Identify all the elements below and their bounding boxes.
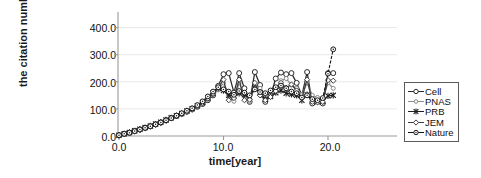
data-marker-center [191, 108, 193, 110]
data-marker [284, 77, 288, 81]
data-marker-center [238, 90, 240, 92]
legend-label: Cell [425, 87, 441, 96]
legend-item-pnas[interactable]: PNAS [408, 96, 456, 106]
legend-label: JEM [425, 118, 444, 127]
data-marker-center [265, 92, 267, 94]
data-marker-center [181, 112, 183, 114]
legend-item-prb[interactable]: PRB [408, 107, 456, 117]
data-marker [305, 70, 310, 75]
data-marker-center [218, 86, 220, 88]
data-marker-center [223, 89, 225, 91]
data-marker [284, 72, 289, 77]
data-marker-center [254, 89, 256, 91]
data-marker-center [280, 85, 282, 87]
legend-marker-cell [408, 87, 424, 96]
data-marker-center [129, 132, 131, 134]
data-marker-center [139, 129, 141, 131]
data-marker-center [134, 130, 136, 132]
legend-label: Nature [425, 128, 454, 137]
data-marker-center [270, 90, 272, 92]
data-marker [278, 70, 283, 75]
data-marker-center [207, 96, 209, 98]
data-marker-center [291, 91, 293, 93]
chart-figure: the citation number time[year] 400.0 300… [0, 0, 481, 178]
data-marker-center [150, 125, 152, 127]
data-marker-center [233, 94, 235, 96]
legend-label: PRB [425, 107, 445, 116]
legend-marker-nature [408, 128, 424, 137]
data-marker-center [155, 124, 157, 126]
data-marker-center [306, 95, 308, 97]
data-marker-center [186, 110, 188, 112]
data-marker [331, 78, 336, 83]
data-marker-center [312, 98, 314, 100]
data-marker-center [171, 117, 173, 119]
data-marker-center [332, 49, 334, 51]
data-marker-center [322, 97, 324, 99]
data-marker [289, 71, 294, 76]
data-marker-center [197, 104, 199, 106]
data-marker-center [317, 99, 319, 101]
data-marker [221, 72, 226, 77]
data-marker [226, 98, 231, 103]
data-marker-center [202, 101, 204, 103]
data-marker [294, 80, 299, 85]
data-marker-center [144, 127, 146, 128]
data-marker-center [165, 120, 167, 122]
data-marker-center [118, 134, 120, 136]
data-marker [273, 76, 278, 81]
data-marker-center [285, 88, 287, 90]
data-marker-center [296, 92, 298, 94]
data-marker-center [259, 91, 261, 93]
data-marker-center [123, 133, 125, 135]
legend-item-cell[interactable]: Cell [408, 86, 456, 96]
legend-marker-jem [408, 118, 424, 127]
legend-label: PNAS [425, 97, 451, 106]
data-marker [237, 71, 242, 76]
data-marker-center [228, 91, 230, 93]
data-marker [331, 86, 335, 90]
chart-legend: Cell PNAS PRB [404, 82, 459, 142]
legend-marker-pnas [408, 97, 424, 106]
data-marker-center [244, 92, 246, 94]
data-marker-center [275, 86, 277, 88]
data-marker [226, 71, 231, 76]
legend-item-nature[interactable]: Nature [408, 128, 456, 138]
data-marker-center [160, 122, 162, 124]
data-marker [252, 70, 257, 75]
data-marker [242, 98, 247, 103]
data-marker-center [212, 91, 214, 93]
data-marker [331, 71, 336, 76]
data-marker-center [301, 97, 303, 99]
legend-item-jem[interactable]: JEM [408, 117, 456, 127]
data-marker-center [327, 73, 329, 75]
data-marker-center [249, 95, 251, 97]
data-marker-center [176, 115, 178, 117]
legend-marker-prb [408, 107, 424, 116]
